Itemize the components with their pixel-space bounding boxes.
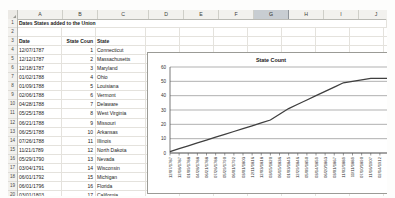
cell-I2[interactable]	[316, 28, 350, 36]
column-header-b[interactable]: B	[63, 10, 98, 19]
spreadsheet-grid[interactable]: A B C D E F G H I J K L 1234567891011121…	[8, 10, 387, 196]
table-row[interactable]: DateState CounState	[18, 37, 387, 46]
row-header-6[interactable]: 6	[8, 64, 17, 73]
row-header-14[interactable]: 14	[8, 137, 17, 146]
cell-I3[interactable]	[316, 37, 350, 45]
cell-B19[interactable]: 16	[62, 182, 96, 190]
cell-C18[interactable]: Michigan	[96, 173, 146, 181]
cell-C11[interactable]: West Virginia	[96, 109, 146, 117]
cell-A16[interactable]: 05/29/1790	[18, 155, 62, 163]
cell-C13[interactable]: Arkansas	[96, 128, 146, 136]
cell-A7[interactable]: 01/02/1788	[18, 73, 62, 81]
cell-B6[interactable]: 3	[62, 64, 96, 72]
cell-B15[interactable]: 12	[62, 146, 96, 154]
row-header-16[interactable]: 16	[8, 155, 17, 164]
row-header-8[interactable]: 8	[8, 82, 17, 91]
row-header-11[interactable]: 11	[8, 109, 17, 118]
cell-A17[interactable]: 03/04/1791	[18, 164, 62, 172]
column-header-j[interactable]: J	[359, 10, 387, 19]
cell-C19[interactable]: Florida	[96, 182, 146, 190]
row-header-12[interactable]: 12	[8, 119, 17, 128]
cell-C20[interactable]: California	[96, 191, 146, 196]
cell-A6[interactable]: 12/18/1787	[18, 64, 62, 72]
cell-C17[interactable]: Wisconsin	[96, 164, 146, 172]
row-header-19[interactable]: 19	[8, 182, 17, 191]
column-header-e[interactable]: E	[184, 10, 219, 19]
cell-E3[interactable]	[180, 37, 214, 45]
cell-D3[interactable]	[146, 37, 180, 45]
cell-A11[interactable]: 05/25/1788	[18, 109, 62, 117]
cell-B10[interactable]: 7	[62, 100, 96, 108]
column-header-d[interactable]: D	[149, 10, 184, 19]
chart-object[interactable]: State Count 010203040506012/07/178712/18…	[147, 52, 387, 194]
cell-A4[interactable]: 12/07/1787	[18, 46, 62, 54]
sheet-title-cell[interactable]: Dates States added to the Union	[18, 19, 268, 27]
cell-A8[interactable]: 01/09/1788	[18, 82, 62, 90]
cell-J2[interactable]	[350, 28, 384, 36]
cell-B8[interactable]: 5	[62, 82, 96, 90]
cell-C8[interactable]: Louisiana	[96, 82, 146, 90]
row-header-1[interactable]: 1	[8, 19, 17, 28]
row-header-5[interactable]: 5	[8, 55, 17, 64]
column-header-f[interactable]: F	[219, 10, 254, 19]
cell-B13[interactable]: 10	[62, 128, 96, 136]
cell-B20[interactable]: 17	[62, 191, 96, 196]
cell-B12[interactable]: 9	[62, 119, 96, 127]
cell-B3[interactable]: State Coun	[62, 37, 96, 45]
cell-B16[interactable]: 13	[62, 155, 96, 163]
cell-C9[interactable]: Vermont	[96, 91, 146, 99]
cell-J3[interactable]	[350, 37, 384, 45]
cell-G2[interactable]	[248, 28, 282, 36]
cell-C2[interactable]	[96, 28, 146, 36]
cell-A3[interactable]: Date	[18, 37, 62, 45]
cell-A19[interactable]: 06/01/1796	[18, 182, 62, 190]
cell-B11[interactable]: 8	[62, 109, 96, 117]
cell-A12[interactable]: 06/21/1788	[18, 119, 62, 127]
cell-B4[interactable]: 1	[62, 46, 96, 54]
cell-C5[interactable]: Massachusetts	[96, 55, 146, 63]
cell-K2[interactable]	[384, 28, 387, 36]
cell-B14[interactable]: 11	[62, 137, 96, 145]
cell-empty[interactable]	[268, 19, 387, 27]
cell-A18[interactable]: 06/01/1792	[18, 173, 62, 181]
row-header-18[interactable]: 18	[8, 173, 17, 182]
row-header-17[interactable]: 17	[8, 164, 17, 173]
cell-C6[interactable]: Maryland	[96, 64, 146, 72]
cell-C15[interactable]: North Dakota	[96, 146, 146, 154]
column-header-a[interactable]: A	[18, 10, 63, 19]
cell-G3[interactable]	[248, 37, 282, 45]
column-header-i[interactable]: I	[324, 10, 359, 19]
cell-H2[interactable]	[282, 28, 316, 36]
row-header-10[interactable]: 10	[8, 100, 17, 109]
row-header-13[interactable]: 13	[8, 128, 17, 137]
cell-B2[interactable]	[62, 28, 96, 36]
cell-C16[interactable]: Nevada	[96, 155, 146, 163]
cell-B5[interactable]: 2	[62, 55, 96, 63]
cell-C4[interactable]: Connecticut	[96, 46, 146, 54]
row-header-3[interactable]: 3	[8, 37, 17, 46]
cell-K3[interactable]	[384, 37, 387, 45]
cell-F3[interactable]	[214, 37, 248, 45]
cell-A20[interactable]: 03/01/1803	[18, 191, 62, 196]
cell-A15[interactable]: 11/21/1789	[18, 146, 62, 154]
select-all-corner[interactable]	[8, 10, 18, 19]
column-header-h[interactable]: H	[289, 10, 324, 19]
cell-A2[interactable]	[18, 28, 62, 36]
cell-A9[interactable]: 02/06/1788	[18, 91, 62, 99]
table-row[interactable]: Dates States added to the Union	[18, 19, 387, 28]
column-header-c[interactable]: C	[98, 10, 149, 19]
cell-B9[interactable]: 6	[62, 91, 96, 99]
table-row[interactable]	[18, 28, 387, 37]
cell-A13[interactable]: 06/25/1788	[18, 128, 62, 136]
cell-B17[interactable]: 14	[62, 164, 96, 172]
row-header-2[interactable]: 2	[8, 28, 17, 37]
cell-D2[interactable]	[146, 28, 180, 36]
cell-A5[interactable]: 12/12/1787	[18, 55, 62, 63]
cell-B18[interactable]: 15	[62, 173, 96, 181]
row-header-9[interactable]: 9	[8, 91, 17, 100]
column-header-g[interactable]: G	[254, 10, 289, 19]
row-header-7[interactable]: 7	[8, 73, 17, 82]
cell-C10[interactable]: Delaware	[96, 100, 146, 108]
cell-B7[interactable]: 4	[62, 73, 96, 81]
row-header-4[interactable]: 4	[8, 46, 17, 55]
